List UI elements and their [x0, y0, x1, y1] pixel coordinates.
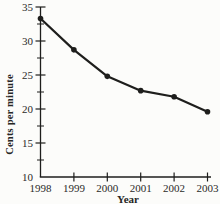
y-tick-label: 35 [22, 1, 34, 13]
data-point [205, 109, 211, 115]
chart-svg: 101520253035199819992000200120022003 [0, 0, 220, 204]
x-tick-label: 2000 [96, 182, 119, 194]
data-point [138, 88, 144, 94]
x-tick-label: 2001 [130, 182, 152, 194]
data-point [105, 74, 111, 80]
y-tick-label: 25 [22, 69, 34, 81]
y-tick-label: 20 [22, 103, 34, 115]
x-tick-label: 2003 [197, 182, 220, 194]
x-tick-label: 2002 [163, 182, 185, 194]
y-axis-title: Cents per minute [4, 59, 17, 171]
data-point [71, 47, 77, 53]
data-line [41, 19, 208, 112]
x-tick-label: 1999 [63, 182, 86, 194]
y-tick-label: 15 [22, 137, 34, 149]
chart-area: 101520253035199819992000200120022003 [0, 0, 220, 204]
data-point [38, 16, 44, 22]
x-axis-title: Year [98, 193, 158, 204]
y-tick-label: 30 [22, 35, 34, 47]
data-point [171, 94, 177, 100]
x-tick-label: 1998 [30, 182, 53, 194]
scanned-line-chart-figure: 101520253035199819992000200120022003 Cen… [0, 0, 220, 204]
